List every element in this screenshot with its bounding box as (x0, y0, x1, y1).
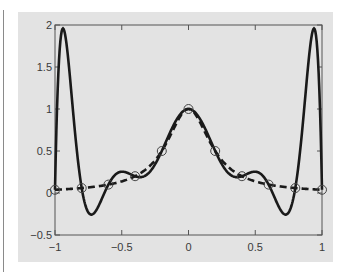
x-tick-labels: −1−0.500.51 (49, 241, 325, 253)
axes-box (55, 25, 322, 235)
x-tick-label: −1 (49, 241, 62, 253)
y-tick-label: 0.5 (37, 145, 52, 157)
y-tick-label: 1.5 (37, 61, 52, 73)
y-tick-label: −0.5 (30, 229, 52, 241)
y-tick-label: 2 (46, 19, 52, 31)
chart-plot: −1−0.500.51 −0.500.511.52 (0, 0, 350, 274)
y-tick-label: 1 (46, 103, 52, 115)
runge-function-dashed-line (55, 109, 322, 190)
axis-ticks (55, 25, 322, 235)
x-tick-label: 0.5 (248, 241, 263, 253)
x-tick-label: −0.5 (111, 241, 133, 253)
interpolation-node-markers (51, 105, 327, 195)
y-tick-labels: −0.500.511.52 (30, 19, 52, 241)
x-tick-label: 1 (319, 241, 325, 253)
x-tick-label: 0 (185, 241, 191, 253)
